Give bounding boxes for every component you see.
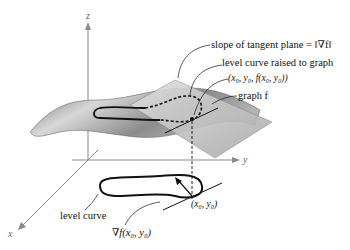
y-axis-label: y <box>243 154 247 165</box>
level-curve-label: level curve <box>60 211 106 222</box>
point-3d <box>190 117 194 121</box>
graph-label: graph f <box>238 91 268 102</box>
point3d-label: (x₀, y₀, f(x₀, y₀)) <box>228 74 288 84</box>
diagram-canvas <box>0 0 350 250</box>
level-raised-label: level curve raised to graph <box>222 58 333 69</box>
z-axis-label: z <box>86 10 90 21</box>
level-curve <box>100 175 202 198</box>
x-axis-label: x <box>8 228 12 239</box>
gradient-label: ∇f(x₀, y₀) <box>112 228 151 239</box>
slope-label: slope of tangent plane = ‖∇f‖ <box>211 40 331 51</box>
point2d-label: (x₀, y₀) <box>191 200 217 210</box>
